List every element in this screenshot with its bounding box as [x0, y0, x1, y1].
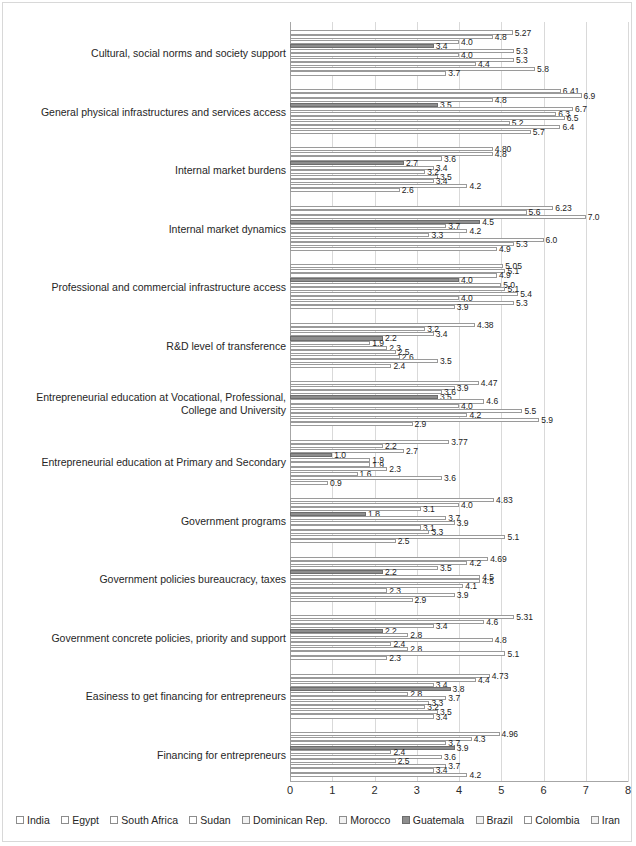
bar-rect	[290, 390, 442, 394]
legend-label: Morocco	[350, 814, 390, 826]
bar-guatemala: 3.5	[290, 395, 628, 399]
bar-india: 2.9	[290, 422, 628, 426]
bar-rect	[290, 458, 370, 462]
bar-dominican-rep-: 4.0	[290, 53, 628, 57]
bar-dominican-rep-: 4.8	[290, 638, 628, 642]
bar-south-africa: 2.6	[290, 355, 628, 359]
bar-rect	[290, 121, 510, 125]
bar-rect	[290, 575, 480, 579]
bar-colombia: 2.2	[290, 444, 628, 448]
bar-south-africa: 3.3	[290, 530, 628, 534]
bar-value-label: 2.5	[398, 537, 410, 546]
bar-rect	[290, 647, 408, 651]
legend-item-india[interactable]: India	[16, 814, 50, 826]
bar-sudan: 4.1	[290, 584, 628, 588]
bar-rect	[290, 287, 505, 291]
bar-guatemala: 2.2	[290, 336, 628, 340]
x-tick-7: 7	[583, 784, 589, 796]
bar-value-label: 3.7	[448, 69, 460, 78]
value-axis-ticks: 012345678	[290, 784, 628, 802]
bar-morocco: 1.9	[290, 458, 628, 462]
bar-guatemala: 1.0	[290, 453, 628, 457]
bar-sudan: 3.3	[290, 701, 628, 705]
bar-dominican-rep-: 4.0	[290, 404, 628, 408]
legend-item-brazil[interactable]: Brazil	[476, 814, 513, 826]
bar-morocco: 3.4	[290, 166, 628, 170]
legend-item-iran[interactable]: Iran	[591, 814, 620, 826]
legend-swatch-icon	[16, 816, 24, 824]
x-tick-0: 0	[287, 784, 293, 796]
bar-dominican-rep-: 3.7	[290, 696, 628, 700]
legend-swatch-icon	[339, 816, 347, 824]
bar-rect	[290, 449, 404, 453]
legend-label: Egypt	[72, 814, 99, 826]
legend-swatch-icon	[476, 816, 484, 824]
bar-rect	[290, 530, 429, 534]
bar-rect	[290, 147, 493, 151]
bar-rect	[290, 759, 396, 763]
bar-sudan: 3.3	[290, 233, 628, 237]
legend-label: India	[27, 814, 50, 826]
category-label: Cultural, social norms and society suppo…	[8, 47, 286, 60]
bar-rect	[290, 210, 527, 214]
bar-south-africa: 4.2	[290, 413, 628, 417]
bar-rect	[290, 215, 586, 219]
bar-colombia: 3.9	[290, 386, 628, 390]
x-tick-6: 6	[540, 784, 546, 796]
legend-item-sudan[interactable]: Sudan	[189, 814, 230, 826]
bar-rect	[290, 593, 455, 597]
bar-group: 3.772.22.71.01.91.92.31.63.60.9	[290, 440, 628, 486]
bar-group: 4.694.23.52.24.54.54.12.33.92.9	[290, 557, 628, 603]
bar-group: 4.734.43.43.82.83.73.33.23.53.4	[290, 674, 628, 720]
bar-rect	[290, 481, 328, 485]
bar-iran: 5.31	[290, 615, 628, 619]
bar-rect	[290, 103, 438, 107]
category-label: Easiness to get financing for entreprene…	[8, 690, 286, 703]
legend-item-dominican-rep-[interactable]: Dominican Rep.	[242, 814, 328, 826]
category-label: General physical infrastructures and ser…	[8, 105, 286, 118]
bar-value-label: 4.2	[469, 771, 481, 780]
bar-iran: 4.80	[290, 147, 628, 151]
bar-colombia: 5.1	[290, 269, 628, 273]
chart-legend: IndiaEgyptSouth AfricaSudanDominican Rep…	[10, 808, 626, 832]
bar-egypt: 6.4	[290, 125, 628, 129]
legend-item-colombia[interactable]: Colombia	[524, 814, 579, 826]
bar-brazil: 3.4	[290, 624, 628, 628]
legend-item-south-africa[interactable]: South Africa	[110, 814, 178, 826]
legend-swatch-icon	[110, 816, 118, 824]
legend-item-guatemala[interactable]: Guatemala	[402, 814, 464, 826]
legend-swatch-icon	[591, 816, 599, 824]
bar-rect	[290, 737, 472, 741]
x-tick-1: 1	[329, 784, 335, 796]
x-tick-2: 2	[371, 784, 377, 796]
bar-colombia: 4.0	[290, 503, 628, 507]
bar-morocco: 1.9	[290, 341, 628, 345]
legend-swatch-icon	[524, 816, 532, 824]
bar-rect	[290, 166, 434, 170]
bar-colombia: 5.6	[290, 210, 628, 214]
bar-india: 3.7	[290, 71, 628, 75]
bar-india: 2.6	[290, 188, 628, 192]
legend-swatch-icon	[61, 816, 69, 824]
bar-south-africa: 1.6	[290, 472, 628, 476]
bar-dominican-rep-: 3.2	[290, 170, 628, 174]
x-tick-8: 8	[625, 784, 631, 796]
legend-item-egypt[interactable]: Egypt	[61, 814, 99, 826]
bar-south-africa: 6.0	[290, 238, 628, 242]
bar-guatemala: 3.4	[290, 44, 628, 48]
bar-egypt: 3.5	[290, 710, 628, 714]
bar-sudan: 5.4	[290, 292, 628, 296]
bar-morocco: 4.6	[290, 399, 628, 403]
bar-sudan: 5.5	[290, 409, 628, 413]
bar-india: 5.7	[290, 130, 628, 134]
bar-rect	[290, 67, 535, 71]
bar-rect	[290, 584, 463, 588]
bar-sudan: 2.3	[290, 467, 628, 471]
bar-egypt: 3.5	[290, 359, 628, 363]
legend-swatch-icon	[402, 816, 410, 824]
bar-india: 4.9	[290, 247, 628, 251]
legend-item-morocco[interactable]: Morocco	[339, 814, 390, 826]
bar-rect	[290, 732, 500, 736]
bar-rect	[290, 238, 544, 242]
bar-rect	[290, 112, 556, 116]
